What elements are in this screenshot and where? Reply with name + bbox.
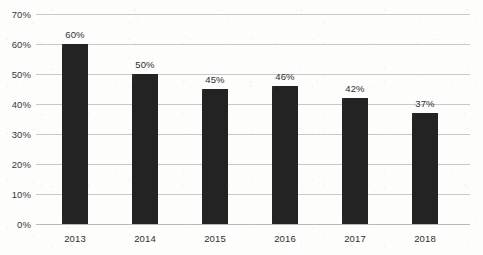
x-axis-category-label: 2016 (274, 233, 296, 244)
x-axis-category-label: 2017 (344, 233, 366, 244)
bar-group: 37%2018 (390, 0, 460, 255)
bar-group: 45%2015 (180, 0, 250, 255)
bar-value-label: 42% (345, 83, 364, 94)
bar-group: 60%2013 (40, 0, 110, 255)
y-axis-tick-labels: 0%10%20%30%40%50%60%70% (0, 0, 31, 255)
x-axis-category-label: 2014 (134, 233, 156, 244)
x-axis-category-label: 2013 (64, 233, 86, 244)
x-axis-category-label: 2018 (414, 233, 436, 244)
bar-value-label: 46% (275, 71, 294, 82)
bar[interactable] (412, 113, 438, 224)
bar[interactable] (132, 74, 158, 224)
bar-group: 42%2017 (320, 0, 390, 255)
bar-chart: 0%10%20%30%40%50%60%70% 60%201350%201445… (0, 0, 483, 255)
bar-group: 46%2016 (250, 0, 320, 255)
y-axis-tick-label: 0% (0, 219, 31, 230)
bar-value-label: 60% (65, 29, 84, 40)
bar-value-label: 37% (415, 98, 434, 109)
bar-value-label: 45% (205, 74, 224, 85)
plot-area: 60%201350%201445%201546%201642%201737%20… (36, 0, 470, 255)
y-axis-tick-label: 30% (0, 129, 31, 140)
bar-value-label: 50% (135, 59, 154, 70)
bar[interactable] (342, 98, 368, 224)
bar[interactable] (202, 89, 228, 224)
y-axis-tick-label: 10% (0, 189, 31, 200)
bar-group: 50%2014 (110, 0, 180, 255)
y-axis-tick-label: 40% (0, 99, 31, 110)
bar[interactable] (62, 44, 88, 224)
x-axis-category-label: 2015 (204, 233, 226, 244)
y-axis-tick-label: 50% (0, 69, 31, 80)
bar[interactable] (272, 86, 298, 224)
y-axis-tick-label: 70% (0, 9, 31, 20)
y-axis-tick-label: 20% (0, 159, 31, 170)
y-axis-tick-label: 60% (0, 39, 31, 50)
